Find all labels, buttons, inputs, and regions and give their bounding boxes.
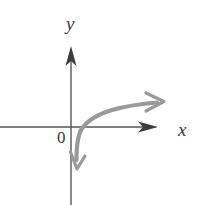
origin-label: 0: [57, 129, 66, 146]
logarithmic-graph-figure: y x 0: [0, 0, 207, 205]
y-axis-label: y: [66, 14, 74, 33]
x-axis-label: x: [178, 120, 186, 139]
graph-canvas: [0, 0, 207, 205]
